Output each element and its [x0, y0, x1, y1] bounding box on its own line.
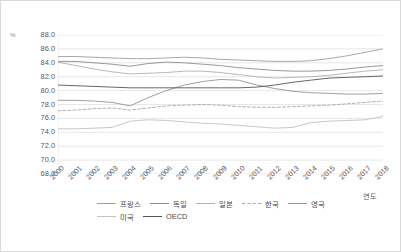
legend-line-swatch [143, 216, 162, 217]
x-axis-title: 연도 [363, 191, 377, 201]
legend-item[interactable]: 독일 [150, 197, 187, 210]
legend-label: 영국 [311, 198, 325, 209]
series-line [58, 116, 383, 129]
legend-label: 프랑스 [120, 198, 141, 209]
legend-item[interactable]: 영국 [288, 197, 325, 210]
legend-item[interactable]: OECD [143, 210, 187, 223]
y-axis-tick-label: 70.0 [41, 156, 55, 164]
legend-line-swatch [150, 203, 169, 204]
legend-label: 한국 [265, 198, 279, 209]
legend-line-swatch [196, 203, 215, 204]
legend-label: 미국 [120, 211, 134, 222]
y-axis: 88.086.084.082.080.078.076.074.072.070.0… [21, 29, 55, 181]
y-axis-tick-label: 72.0 [41, 142, 55, 150]
legend-item[interactable]: 한국 [242, 197, 279, 210]
series-line [58, 49, 383, 62]
legend-line-swatch [97, 216, 116, 217]
y-axis-tick-label: 74.0 [41, 128, 55, 136]
chart-legend: 프랑스독일일본한국영국미국OECD [97, 197, 347, 223]
y-axis-tick-label: 76.0 [41, 114, 55, 122]
legend-item[interactable]: 프랑스 [97, 197, 141, 210]
chart-container: % 88.086.084.082.080.078.076.074.072.070… [0, 0, 401, 252]
y-axis-tick-label: 84.0 [41, 59, 55, 67]
legend-line-swatch [288, 203, 307, 204]
legend-label: 일본 [219, 198, 233, 209]
legend-item[interactable]: 미국 [97, 210, 134, 223]
y-axis-tick-label: 86.0 [41, 45, 55, 53]
series-line [58, 79, 383, 105]
legend-line-swatch [97, 203, 116, 204]
data-series-layer [58, 35, 383, 174]
series-line [58, 61, 383, 71]
legend-label: 독일 [173, 198, 187, 209]
plot-area [58, 35, 383, 174]
series-line [58, 76, 383, 88]
y-axis-tick-label: 78.0 [41, 101, 55, 109]
y-axis-tick-label: 80.0 [41, 87, 55, 95]
legend-label: OECD [166, 212, 187, 221]
y-axis-tick-label: 88.0 [41, 31, 55, 39]
y-axis-tick-label: 82.0 [41, 73, 55, 81]
y-axis-unit-label: % [10, 31, 16, 38]
series-line [58, 101, 383, 111]
legend-item[interactable]: 일본 [196, 197, 233, 210]
legend-line-swatch [242, 203, 261, 204]
